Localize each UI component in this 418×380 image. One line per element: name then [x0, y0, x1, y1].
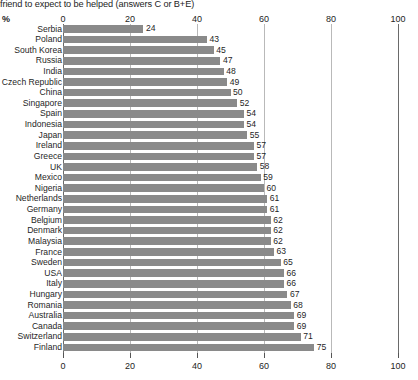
bar [63, 237, 271, 245]
bar [63, 46, 214, 54]
bar-row: Ireland57 [0, 141, 418, 151]
category-label: Czech Republic [0, 77, 62, 87]
bar-value-label: 68 [293, 300, 303, 310]
category-label: Hungary [0, 289, 62, 299]
bar-row: Mexico59 [0, 173, 418, 183]
x-tick-label-bottom: 20 [125, 361, 135, 371]
bar [63, 89, 231, 97]
bar-value-label: 61 [270, 204, 280, 214]
x-tick-label-top: 0 [60, 14, 65, 24]
category-label: Netherlands [0, 193, 62, 203]
bar-value-label: 24 [146, 23, 156, 33]
bar-value-label: 55 [250, 130, 260, 140]
bar-value-label: 66 [287, 268, 297, 278]
bar-value-label: 63 [277, 246, 287, 256]
bar-value-label: 62 [273, 225, 283, 235]
bar [63, 344, 314, 352]
bar-row: Romania68 [0, 300, 418, 310]
category-label: Serbia [0, 24, 62, 34]
bar-row: USA66 [0, 268, 418, 278]
bar-value-label: 57 [256, 151, 266, 161]
bar-row: Germany61 [0, 205, 418, 215]
bar [63, 322, 294, 330]
bar [63, 25, 143, 33]
bar-row: Serbia24 [0, 24, 418, 34]
bar-value-label: 49 [230, 77, 240, 87]
bar-value-label: 65 [283, 257, 293, 267]
category-label: South Korea [0, 45, 62, 55]
bar-row: Finland75 [0, 343, 418, 353]
category-label: Russia [0, 55, 62, 65]
bar [63, 36, 207, 44]
bar-row: France63 [0, 247, 418, 257]
bar [63, 184, 264, 192]
bar-value-label: 48 [226, 66, 236, 76]
bar-value-label: 58 [260, 161, 270, 171]
bar-value-label: 62 [273, 215, 283, 225]
category-label: Germany [0, 204, 62, 214]
bar-row: Nigeria60 [0, 183, 418, 193]
bar [63, 312, 294, 320]
bar-row: South Korea45 [0, 45, 418, 55]
category-label: Switzerland [0, 331, 62, 341]
bar [63, 216, 271, 224]
bar [63, 259, 281, 267]
category-label: Indonesia [0, 119, 62, 129]
bar [63, 68, 224, 76]
bar [63, 333, 301, 341]
category-label: Malaysia [0, 236, 62, 246]
bar-row: Hungary67 [0, 290, 418, 300]
bar [63, 99, 237, 107]
bar [63, 142, 254, 150]
category-label: Japan [0, 130, 62, 140]
bar-chart: friend to expect to be helped (answers C… [0, 0, 418, 380]
bar-row: Netherlands61 [0, 194, 418, 204]
category-label: Mexico [0, 172, 62, 182]
bar-value-label: 43 [210, 34, 220, 44]
category-label: China [0, 87, 62, 97]
bar [63, 269, 284, 277]
bar-row: Australia69 [0, 311, 418, 321]
bar-value-label: 66 [287, 278, 297, 288]
bar-row: Indonesia54 [0, 120, 418, 130]
x-tick-label-top: 60 [259, 14, 269, 24]
category-label: India [0, 66, 62, 76]
bar-value-label: 69 [297, 310, 307, 320]
x-tick-label-bottom: 100 [390, 361, 405, 371]
category-label: Finland [0, 342, 62, 352]
category-label: France [0, 247, 62, 257]
category-label: Spain [0, 108, 62, 118]
bar-row: Italy66 [0, 279, 418, 289]
bar-row: Japan55 [0, 130, 418, 140]
bar-value-label: 47 [223, 55, 233, 65]
category-label: Italy [0, 278, 62, 288]
category-label: Greece [0, 151, 62, 161]
bar [63, 121, 244, 129]
bar-row: Singapore52 [0, 98, 418, 108]
bar [63, 301, 291, 309]
chart-title: friend to expect to be helped (answers C… [0, 0, 300, 10]
bar-value-label: 71 [303, 331, 313, 341]
bar [63, 153, 254, 161]
bar [63, 280, 284, 288]
x-tick-label-bottom: 60 [259, 361, 269, 371]
bar [63, 163, 257, 171]
bar-row: China50 [0, 88, 418, 98]
bar-row: Poland43 [0, 35, 418, 45]
bar-row: Czech Republic49 [0, 77, 418, 87]
bar [63, 291, 287, 299]
category-label: Belgium [0, 215, 62, 225]
bar-value-label: 54 [246, 119, 256, 129]
bar-value-label: 60 [267, 183, 277, 193]
bar-row: Greece57 [0, 151, 418, 161]
bar-row: Malaysia62 [0, 236, 418, 246]
bar [63, 227, 271, 235]
x-tick-label-top: 100 [390, 14, 405, 24]
x-tick-label-top: 40 [192, 14, 202, 24]
category-label: USA [0, 268, 62, 278]
category-label: Singapore [0, 98, 62, 108]
bar-row: Russia47 [0, 56, 418, 66]
bar [63, 248, 274, 256]
bar-row: India48 [0, 66, 418, 76]
bar-value-label: 45 [216, 45, 226, 55]
